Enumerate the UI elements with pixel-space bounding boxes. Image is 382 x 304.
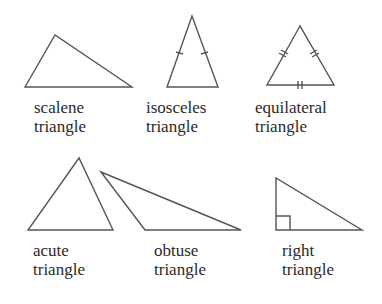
scalene-label: scalene triangle	[34, 98, 86, 136]
label-line: triangle	[154, 260, 206, 279]
label-line: acute	[33, 241, 85, 260]
tick-mark	[176, 52, 183, 54]
label-line: obtuse	[154, 241, 206, 260]
label-line: triangle	[34, 117, 86, 136]
acute-triangle-shape	[28, 158, 113, 230]
obtuse-label: obtuse triangle	[154, 241, 206, 279]
label-line: right	[282, 241, 334, 260]
label-line: triangle	[146, 117, 206, 136]
equilateral-label: equilateral triangle	[255, 98, 327, 136]
label-line: equilateral	[255, 98, 327, 117]
obtuse-triangle-shape	[101, 172, 241, 230]
right-triangle-shape	[276, 178, 362, 230]
scalene-triangle-shape	[25, 35, 132, 87]
label-line: triangle	[33, 260, 85, 279]
label-line: triangle	[282, 260, 334, 279]
label-line: scalene	[34, 98, 86, 117]
label-line: isosceles	[146, 98, 206, 117]
right-label: right triangle	[282, 241, 334, 279]
label-line: triangle	[255, 117, 327, 136]
isosceles-label: isosceles triangle	[146, 98, 206, 136]
isosceles-triangle-shape	[167, 16, 218, 87]
tick-mark	[201, 52, 208, 54]
equilateral-triangle-shape	[267, 26, 334, 89]
acute-label: acute triangle	[33, 241, 85, 279]
right-angle-mark	[276, 216, 290, 230]
